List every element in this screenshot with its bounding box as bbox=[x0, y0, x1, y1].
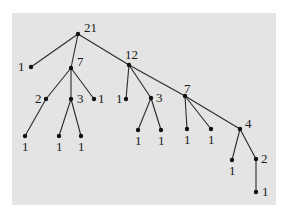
node-label: 3 bbox=[156, 90, 163, 105]
tree-edge bbox=[46, 68, 71, 99]
node-label: 1 bbox=[184, 132, 191, 147]
node-label: 1 bbox=[262, 184, 269, 199]
tree-labels: 21171223111113711114121 bbox=[18, 20, 269, 199]
tree-node bbox=[29, 65, 33, 69]
tree-node bbox=[69, 97, 73, 101]
tree-edge bbox=[232, 129, 240, 160]
node-label: 1 bbox=[158, 133, 165, 148]
tree-node bbox=[127, 63, 131, 67]
node-label: 1 bbox=[229, 163, 236, 178]
node-label: 1 bbox=[56, 139, 63, 154]
tree-edge bbox=[78, 34, 129, 65]
tree-edge bbox=[240, 129, 256, 159]
node-label: 1 bbox=[208, 132, 215, 147]
tree-node bbox=[136, 128, 140, 132]
tree-node bbox=[185, 127, 189, 131]
tree-edge bbox=[129, 65, 151, 98]
tree-node bbox=[230, 158, 234, 162]
tree-edge bbox=[185, 96, 240, 129]
tree-node bbox=[79, 134, 83, 138]
node-label: 3 bbox=[77, 91, 84, 106]
tree-node bbox=[92, 97, 96, 101]
tree-node bbox=[57, 134, 61, 138]
tree-edge bbox=[185, 96, 187, 129]
node-label: 1 bbox=[116, 91, 123, 106]
tree-node bbox=[76, 32, 80, 36]
tree-node bbox=[69, 66, 73, 70]
node-label: 12 bbox=[125, 47, 138, 62]
node-label: 2 bbox=[261, 151, 268, 166]
tree-edge bbox=[185, 96, 211, 129]
node-label: 21 bbox=[84, 20, 97, 35]
tree-diagram: 21171223111113711114121 bbox=[0, 0, 285, 215]
tree-edge bbox=[59, 99, 71, 136]
tree-node bbox=[159, 128, 163, 132]
tree-node bbox=[44, 97, 48, 101]
tree-edges bbox=[25, 34, 256, 192]
tree-node bbox=[149, 96, 153, 100]
node-label: 1 bbox=[22, 139, 29, 154]
tree-edge bbox=[138, 98, 151, 130]
tree-node bbox=[254, 190, 258, 194]
node-label: 7 bbox=[184, 81, 191, 96]
tree-node bbox=[238, 127, 242, 131]
tree-node bbox=[209, 127, 213, 131]
tree-edge bbox=[31, 34, 78, 67]
node-label: 1 bbox=[78, 139, 85, 154]
tree-node bbox=[124, 97, 128, 101]
node-label: 4 bbox=[245, 116, 252, 131]
node-label: 1 bbox=[135, 133, 142, 148]
tree-edge bbox=[126, 65, 129, 99]
node-label: 2 bbox=[35, 91, 42, 106]
node-label: 1 bbox=[18, 59, 25, 74]
tree-node bbox=[254, 157, 258, 161]
node-label: 1 bbox=[98, 91, 105, 106]
tree-nodes bbox=[23, 32, 258, 194]
tree-node bbox=[23, 134, 27, 138]
node-label: 7 bbox=[77, 54, 84, 69]
